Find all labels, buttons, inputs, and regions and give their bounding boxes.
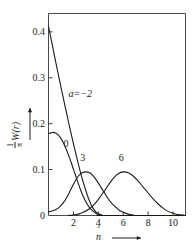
y-axis-ticks bbox=[49, 32, 53, 170]
curve-a=-2 bbox=[49, 26, 186, 215]
x-tick-label: 6 bbox=[113, 218, 133, 228]
y-tick-label: 0 bbox=[18, 211, 45, 221]
x-tick-label: 4 bbox=[88, 218, 108, 228]
fraction-numerator: 1 bbox=[7, 142, 15, 148]
data-curves bbox=[49, 26, 186, 215]
curve-a=6 bbox=[68, 172, 185, 216]
y-tick-label: 0.2 bbox=[18, 119, 45, 129]
x-axis-variable: n̂ bbox=[96, 231, 101, 242]
x-tick-label: 8 bbox=[138, 218, 158, 228]
y-tick-label: 0.3 bbox=[18, 73, 45, 83]
x-axis-arrow-icon bbox=[112, 236, 141, 240]
frame-border bbox=[49, 14, 186, 216]
x-tick-label: 2 bbox=[63, 218, 83, 228]
y-tick-label: 0.4 bbox=[18, 27, 45, 37]
curve-annotation-0: a=−2 bbox=[68, 89, 92, 99]
y-axis-label: 1 π W(r) bbox=[2, 96, 28, 174]
curve-annotation-1: 0 bbox=[63, 139, 68, 149]
curve-annotation-2: 3 bbox=[80, 153, 85, 163]
x-tick-label: 10 bbox=[163, 218, 183, 228]
chart-figure: 1 π W(r) n̂ 00.10.20.30.4246810a=−2036 bbox=[0, 0, 196, 247]
y-tick-label: 0.1 bbox=[18, 165, 45, 175]
plot-frame bbox=[49, 14, 186, 216]
curve-annotation-3: 6 bbox=[119, 153, 124, 163]
fraction-denominator: π bbox=[16, 142, 24, 148]
x-axis-label: n̂ bbox=[96, 231, 101, 242]
fraction-one-over-pi: 1 π bbox=[7, 142, 24, 148]
